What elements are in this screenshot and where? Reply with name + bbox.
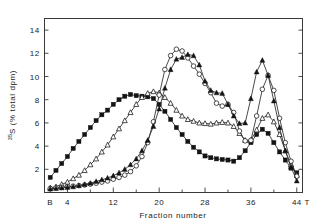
data-marker — [111, 102, 115, 106]
svg-text:35S (% total dpm): 35S (% total dpm) — [7, 70, 17, 140]
data-marker — [145, 138, 150, 143]
data-marker — [209, 156, 213, 160]
chart-canvas: 2468101214 B41220283644 35S (% total dpm… — [0, 0, 331, 224]
series-line-open-triangles — [50, 92, 297, 188]
data-marker — [254, 127, 259, 132]
y-axis-ticks-right — [299, 30, 303, 169]
y-tick-label: 8 — [35, 96, 40, 105]
data-marker — [180, 132, 184, 136]
data-marker — [128, 92, 132, 96]
data-marker — [214, 157, 218, 161]
y-tick-label: 2 — [35, 165, 40, 174]
data-marker — [197, 150, 201, 154]
data-marker — [128, 169, 133, 174]
x-tick-label: 4 — [65, 198, 70, 207]
data-marker — [117, 175, 122, 180]
data-marker — [294, 178, 299, 183]
data-marker — [151, 96, 155, 100]
data-marker — [260, 116, 265, 121]
data-marker — [237, 129, 242, 134]
data-marker — [60, 161, 64, 165]
data-marker — [169, 117, 173, 121]
data-marker — [157, 93, 162, 98]
y-tick-label: 4 — [35, 142, 40, 151]
data-marker — [139, 148, 144, 153]
data-marker — [77, 139, 81, 143]
data-marker — [163, 109, 167, 113]
data-marker — [71, 176, 76, 181]
data-marker — [185, 52, 190, 57]
data-marker — [168, 53, 173, 58]
data-marker — [94, 118, 98, 122]
data-marker — [237, 156, 241, 160]
y-tick-label: 10 — [30, 73, 40, 82]
data-marker — [214, 101, 219, 106]
data-marker — [191, 145, 195, 149]
data-marker — [231, 124, 236, 129]
data-marker — [180, 55, 185, 60]
data-marker — [122, 173, 127, 178]
x-tick-label: 28 — [200, 198, 210, 207]
data-marker — [254, 114, 259, 119]
y-axis-tick-labels: 2468101214 — [30, 26, 40, 174]
data-marker — [151, 89, 156, 94]
data-marker — [117, 170, 122, 175]
data-marker — [83, 132, 87, 136]
data-marker — [248, 96, 253, 101]
data-marker — [185, 117, 190, 122]
data-marker — [162, 85, 167, 90]
data-marker — [123, 94, 127, 98]
x-tick-label: 44 — [292, 198, 302, 207]
data-marker — [243, 149, 247, 153]
data-marker — [226, 158, 230, 162]
data-marker — [65, 154, 69, 158]
data-marker — [254, 69, 259, 74]
data-marker — [186, 139, 190, 143]
x-axis-end-label-T: T — [305, 198, 310, 207]
data-marker — [197, 62, 202, 67]
data-marker — [191, 64, 196, 69]
series-line-filled-triangles — [50, 54, 297, 189]
data-marker — [283, 158, 287, 162]
data-marker — [277, 150, 281, 154]
series-open-triangles — [48, 89, 300, 190]
data-marker — [100, 113, 104, 117]
data-marker — [140, 154, 145, 159]
data-marker — [266, 112, 271, 117]
y-axis-title-main: S (% total dpm) — [8, 70, 17, 134]
data-marker — [111, 173, 116, 178]
data-marker — [54, 168, 58, 172]
data-marker — [174, 125, 178, 129]
data-marker — [48, 175, 52, 179]
data-marker — [163, 67, 168, 72]
x-axis-tick-labels: B41220283644 — [47, 198, 301, 207]
data-marker — [266, 131, 270, 135]
data-marker — [151, 124, 156, 129]
data-marker — [203, 154, 207, 158]
data-marker — [122, 167, 127, 172]
x-tick-label: 20 — [154, 198, 164, 207]
data-marker — [220, 120, 225, 125]
data-marker — [76, 172, 81, 177]
data-marker — [260, 127, 264, 131]
y-tick-label: 14 — [30, 26, 40, 35]
data-marker — [249, 138, 254, 143]
x-tick-label: 36 — [246, 198, 256, 207]
data-marker — [243, 120, 248, 125]
x-tick-label: 12 — [108, 198, 118, 207]
data-marker — [134, 94, 138, 98]
data-series-layer — [48, 47, 300, 191]
x-axis-title: Fraction number — [139, 211, 206, 220]
figure-container: 2468101214 B41220283644 35S (% total dpm… — [0, 0, 331, 224]
data-marker — [180, 49, 185, 54]
data-marker — [105, 108, 109, 112]
data-marker — [272, 141, 276, 145]
data-marker — [88, 125, 92, 129]
data-marker — [65, 179, 70, 184]
x-tick-label: B — [47, 198, 53, 207]
data-marker — [260, 87, 265, 92]
data-marker — [243, 139, 248, 144]
data-marker — [117, 98, 121, 102]
data-marker — [260, 58, 265, 63]
data-marker — [197, 72, 202, 77]
